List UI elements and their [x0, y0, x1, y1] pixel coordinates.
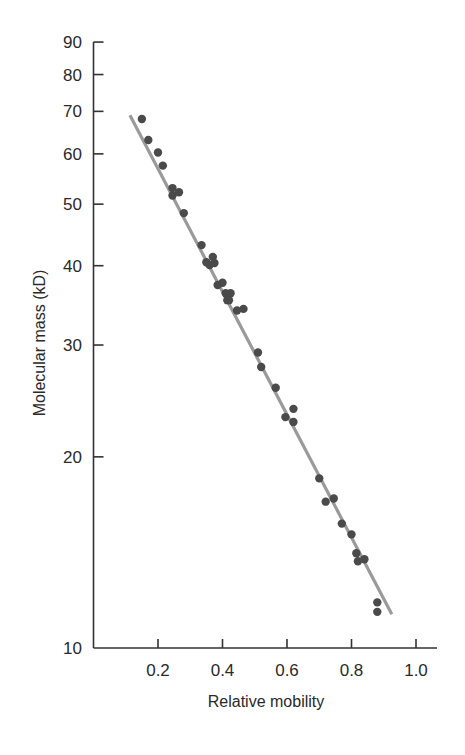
- data-point: [254, 348, 262, 356]
- data-point: [315, 474, 323, 482]
- y-tick-label: 90: [63, 33, 82, 52]
- x-tick-label: 0.4: [211, 661, 235, 680]
- axes: 102030405060708090 0.20.40.60.81.0: [63, 33, 437, 680]
- data-point: [144, 136, 152, 144]
- data-point: [289, 405, 297, 413]
- data-point: [289, 418, 297, 426]
- y-tick-label: 10: [63, 639, 82, 658]
- data-point: [352, 549, 360, 557]
- data-point: [226, 289, 234, 297]
- data-point: [330, 494, 338, 502]
- y-tick-label: 70: [63, 102, 82, 121]
- data-point: [225, 296, 233, 304]
- scatter-plot: 102030405060708090 0.20.40.60.81.0 Relat…: [0, 0, 465, 755]
- x-ticks: 0.20.40.60.81.0: [146, 639, 428, 680]
- data-point: [338, 519, 346, 527]
- data-point: [281, 413, 289, 421]
- data-point: [180, 209, 188, 217]
- data-point: [360, 555, 368, 563]
- data-point: [272, 383, 280, 391]
- y-ticks: 102030405060708090: [63, 33, 103, 658]
- y-tick-label: 30: [63, 336, 82, 355]
- y-tick-label: 80: [63, 66, 82, 85]
- x-tick-label: 0.8: [340, 661, 364, 680]
- data-points: [138, 115, 382, 616]
- data-point: [322, 497, 330, 505]
- x-axis-title: Relative mobility: [208, 693, 324, 710]
- x-tick-label: 1.0: [404, 661, 428, 680]
- y-axis-title: Molecular mass (kD): [31, 270, 48, 417]
- data-point: [197, 241, 205, 249]
- data-point: [218, 279, 226, 287]
- x-tick-label: 0.2: [146, 661, 170, 680]
- data-point: [347, 530, 355, 538]
- y-tick-label: 50: [63, 195, 82, 214]
- data-point: [138, 115, 146, 123]
- data-point: [159, 161, 167, 169]
- data-point: [210, 259, 218, 267]
- data-point: [154, 148, 162, 156]
- data-point: [175, 188, 183, 196]
- x-tick-label: 0.6: [275, 661, 299, 680]
- data-point: [373, 608, 381, 616]
- y-tick-label: 20: [63, 448, 82, 467]
- data-point: [373, 598, 381, 606]
- y-tick-label: 40: [63, 257, 82, 276]
- data-point: [239, 305, 247, 313]
- data-point: [257, 363, 265, 371]
- y-tick-label: 60: [63, 145, 82, 164]
